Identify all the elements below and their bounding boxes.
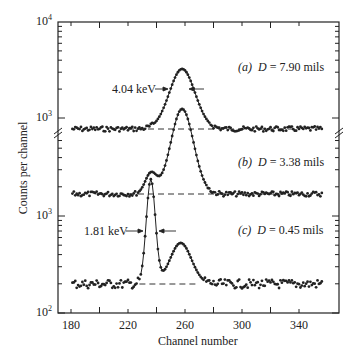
panel-d-symbol: D xyxy=(258,155,267,169)
x-tick-label-340: 340 xyxy=(290,318,308,333)
y-tick-label-10e3-upper: 103 xyxy=(36,110,52,125)
panel-tag: (a) xyxy=(238,60,252,74)
y-tick-exp: 4 xyxy=(48,13,52,22)
fwhm-label-c: 1.81 keV xyxy=(84,224,128,239)
y-tick-label-10e4: 104 xyxy=(36,14,52,29)
spectrum-figure xyxy=(0,0,358,359)
y-tick-base: 10 xyxy=(36,305,48,319)
baseline-dashes xyxy=(128,129,299,284)
panel-d-symbol: D xyxy=(257,223,266,237)
panel-label-c: (c) D = 0.45 mils xyxy=(238,223,323,238)
panel-d-value: = 7.90 mils xyxy=(270,60,324,74)
y-tick-exp: 3 xyxy=(48,109,52,118)
panel-tag: (b) xyxy=(238,155,252,169)
panel-d-symbol: D xyxy=(258,60,267,74)
y-tick-base: 10 xyxy=(36,110,48,124)
panel-d-value: = 0.45 mils xyxy=(269,223,323,237)
y-tick-exp: 3 xyxy=(48,207,52,216)
y-axis-label: Counts per channel xyxy=(16,122,31,215)
fwhm-label-a: 4.04 keV xyxy=(112,82,156,97)
y-tick-exp: 2 xyxy=(48,304,52,313)
panel-label-b: (b) D = 3.38 mils xyxy=(238,155,324,170)
spectrum-curves xyxy=(71,68,323,290)
y-tick-base: 10 xyxy=(36,14,48,28)
x-tick-label-220: 220 xyxy=(119,318,137,333)
fwhm-arrows-a xyxy=(155,87,204,91)
y-tick-label-10e3-lower: 103 xyxy=(36,208,52,223)
panel-label-a: (a) D = 7.90 mils xyxy=(238,60,324,75)
y-tick-base: 10 xyxy=(36,208,48,222)
x-tick-label-260: 260 xyxy=(176,318,194,333)
y-tick-label-10e2: 102 xyxy=(36,305,52,320)
panel-d-value: = 3.38 mils xyxy=(270,155,324,169)
panel-tag: (c) xyxy=(238,223,251,237)
x-tick-label-180: 180 xyxy=(62,318,80,333)
fwhm-arrows-c xyxy=(126,229,176,233)
x-axis-label: Channel number xyxy=(158,334,238,349)
x-tick-label-300: 300 xyxy=(233,318,251,333)
